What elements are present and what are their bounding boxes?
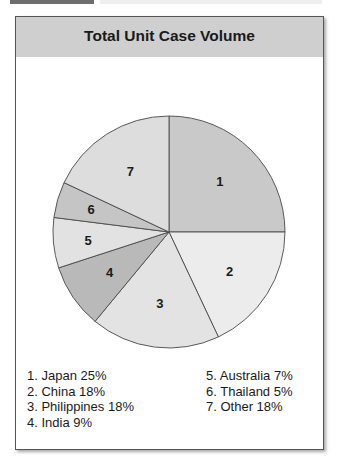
legend-item-philippines: 3. Philippines 18%: [27, 399, 134, 415]
legend-item-japan: 1. Japan 25%: [27, 368, 134, 384]
slice-number-label: 1: [216, 174, 223, 189]
slice-number-label: 5: [85, 233, 92, 248]
slice-number-label: 6: [87, 202, 94, 217]
legend-column-2: 5. Australia 7% 6. Thailand 5% 7. Other …: [206, 368, 293, 415]
slice-number-label: 3: [156, 296, 163, 311]
legend-item-other: 7. Other 18%: [206, 399, 293, 415]
legend-item-india: 4. India 9%: [27, 415, 134, 431]
slice-number-label: 7: [127, 164, 134, 179]
legend-item-china: 2. China 18%: [27, 384, 134, 400]
slice-number-label: 2: [226, 264, 233, 279]
pie-slice-japan: [169, 116, 285, 232]
slice-number-label: 4: [106, 265, 114, 280]
legend-column-1: 1. Japan 25% 2. China 18% 3. Philippines…: [27, 368, 134, 430]
legend-item-australia: 5. Australia 7%: [206, 368, 293, 384]
legend-item-thailand: 6. Thailand 5%: [206, 384, 293, 400]
